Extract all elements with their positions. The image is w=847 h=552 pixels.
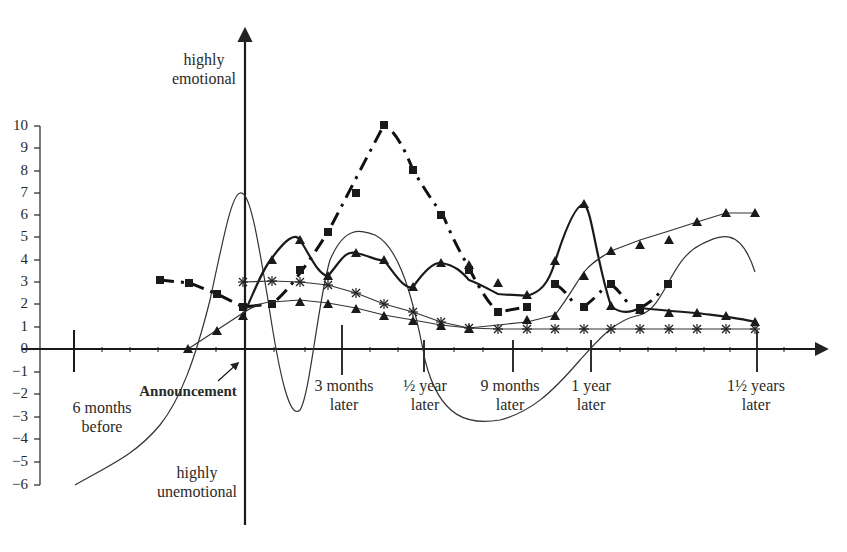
ytick-m1: −1 (0, 363, 28, 380)
label-line: 9 months (472, 376, 548, 395)
label-line: 1½ years (716, 376, 796, 395)
label-line: unemotional (150, 482, 244, 501)
chart-plot-area (0, 0, 847, 552)
label-line: highly (166, 50, 242, 69)
ytick-4: 4 (0, 251, 28, 268)
ytick-m3: −3 (0, 408, 28, 425)
series-bold-triangle (243, 204, 755, 322)
label-line: later (306, 395, 382, 414)
label-1-year-later: 1 year later (561, 376, 621, 414)
label-line: 3 months (306, 376, 382, 395)
label-1-5-years-later: 1½ years later (716, 376, 796, 414)
axes (22, 30, 826, 525)
series-thin-no-marker (75, 193, 755, 485)
ytick-m5: −5 (0, 453, 28, 470)
ytick-3: 3 (0, 273, 28, 290)
label-3-months-later: 3 months later (306, 376, 382, 414)
y-scale (34, 126, 40, 485)
ytick-7: 7 (0, 184, 28, 201)
ytick-1: 1 (0, 318, 28, 335)
label-line: 1 year (561, 376, 621, 395)
markers-bold-triangle (238, 199, 760, 326)
series-thin-asterisk (243, 281, 755, 329)
label-highly-emotional: highly emotional (166, 50, 242, 88)
label-line: before (64, 417, 140, 436)
ytick-m6: −6 (0, 476, 28, 493)
label-announcement: Announcement (133, 382, 243, 401)
ytick-2: 2 (0, 295, 28, 312)
label-6-months-before: 6 months before (64, 398, 140, 436)
label-highly-unemotional: highly unemotional (150, 463, 244, 501)
ytick-5: 5 (0, 228, 28, 245)
label-line: later (561, 395, 621, 414)
label-line: later (716, 395, 796, 414)
ytick-8: 8 (0, 162, 28, 179)
ytick-6: 6 (0, 206, 28, 223)
label-half-year-later: ½ year later (392, 376, 458, 414)
label-line: ½ year (392, 376, 458, 395)
label-line: later (392, 395, 458, 414)
ytick-0: 0 (0, 340, 28, 357)
ytick-10: 10 (0, 117, 28, 134)
ytick-m2: −2 (0, 385, 28, 402)
label-9-months-later: 9 months later (472, 376, 548, 414)
ytick-9: 9 (0, 139, 28, 156)
label-line: emotional (166, 69, 242, 88)
label-line: later (472, 395, 548, 414)
label-line: 6 months (64, 398, 140, 417)
label-line: highly (150, 463, 244, 482)
ytick-m4: −4 (0, 430, 28, 447)
